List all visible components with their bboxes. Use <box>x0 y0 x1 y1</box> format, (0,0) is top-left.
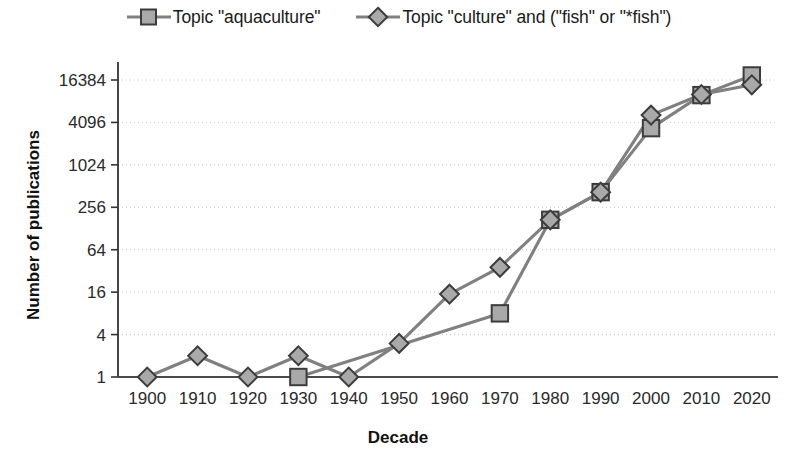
y-axis-ticks-group: 1416642561024409616384 <box>59 71 118 387</box>
x-axis-tick-label: 1900 <box>128 389 166 408</box>
y-axis-tick-label: 1024 <box>68 156 106 175</box>
series-lines-group <box>147 76 752 378</box>
data-point-square <box>492 305 508 321</box>
y-axis-tick-label: 64 <box>87 241 106 260</box>
x-axis-tick-label: 1940 <box>330 389 368 408</box>
y-axis-title: Number of publications <box>24 60 44 390</box>
series-line-1 <box>147 85 752 377</box>
series-markers-group <box>138 67 761 386</box>
x-axis-tick-label: 2010 <box>683 389 721 408</box>
y-axis-tick-label: 4096 <box>68 113 106 132</box>
x-axis-tick-label: 1990 <box>582 389 620 408</box>
data-point-diamond <box>188 346 207 365</box>
data-point-diamond <box>138 368 157 387</box>
x-axis-tick-label: 1970 <box>481 389 519 408</box>
x-axis-title: Decade <box>0 428 796 448</box>
y-axis-tick-label: 16384 <box>59 71 106 90</box>
data-point-diamond <box>289 346 308 365</box>
legend-label-culture-fish: Topic "culture" and ("fish" or "*fish") <box>402 7 671 28</box>
y-axis-tick-label: 16 <box>87 283 106 302</box>
y-axis-tick-label: 1 <box>97 368 106 387</box>
data-point-diamond <box>339 368 358 387</box>
x-axis-tick-labels-group: 1900191019201930194019501960197019801990… <box>128 389 770 408</box>
series-line-0 <box>298 76 751 378</box>
x-axis-tick-label: 1910 <box>179 389 217 408</box>
x-axis-tick-label: 1980 <box>531 389 569 408</box>
data-point-diamond <box>239 368 258 387</box>
x-axis-tick-label: 2000 <box>632 389 670 408</box>
chart-container: Topic "aquaculture" Topic "culture" and … <box>0 0 796 464</box>
x-axis-tick-label: 1950 <box>380 389 418 408</box>
x-axis-tick-label: 1930 <box>279 389 317 408</box>
chart-legend: Topic "aquaculture" Topic "culture" and … <box>0 0 796 34</box>
x-axis-tick-label: 1960 <box>431 389 469 408</box>
legend-label-aquaculture: Topic "aquaculture" <box>173 7 321 28</box>
y-axis-tick-label: 256 <box>78 198 106 217</box>
x-axis-tick-label: 1920 <box>229 389 267 408</box>
data-point-square <box>290 369 306 385</box>
chart-plot-area: 1416642561024409616384 19001910192019301… <box>0 0 796 464</box>
legend-square-marker-icon <box>125 6 173 28</box>
legend-item-culture-fish: Topic "culture" and ("fish" or "*fish") <box>354 6 671 28</box>
legend-item-aquaculture: Topic "aquaculture" <box>125 6 321 28</box>
y-axis-tick-label: 4 <box>97 326 106 345</box>
x-axis-tick-label: 2020 <box>733 389 771 408</box>
legend-diamond-marker-icon <box>354 6 402 28</box>
